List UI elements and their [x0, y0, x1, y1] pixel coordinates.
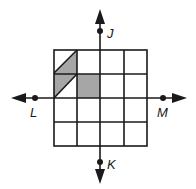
point-m	[160, 95, 166, 101]
arrowhead-left-icon	[11, 93, 26, 103]
arrowhead-up-icon	[95, 9, 105, 24]
point-l	[32, 95, 38, 101]
label-j: J	[106, 26, 114, 41]
shaded-square	[77, 74, 100, 98]
reflection-diagram: J K L M	[0, 0, 196, 189]
point-k	[97, 159, 103, 165]
point-j	[97, 28, 103, 34]
label-l: L	[30, 105, 37, 120]
label-k: K	[107, 157, 117, 172]
arrowhead-right-icon	[172, 93, 187, 103]
label-m: M	[157, 105, 168, 120]
arrowhead-down-icon	[95, 169, 105, 184]
